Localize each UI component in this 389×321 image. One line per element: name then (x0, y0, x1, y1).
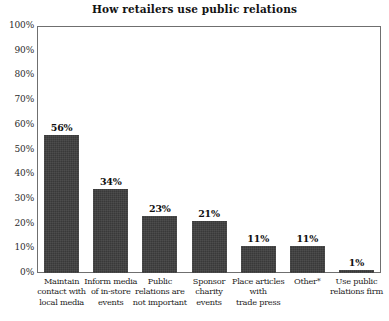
bar-group: 21% (192, 26, 227, 273)
bar-value-label: 56% (35, 122, 88, 133)
y-axis-tick-label: 20% (0, 218, 34, 230)
bar-value-label: 21% (183, 208, 236, 219)
bar-value-label: 11% (281, 233, 334, 244)
x-axis-category-label: Publicrelations arenot important (132, 276, 187, 307)
chart-title: How retailers use public relations (0, 3, 389, 15)
bar[interactable] (93, 189, 128, 273)
x-axis-category-label: Other* (280, 276, 335, 286)
x-axis-category-label: Inform mediaof in-storeevents (83, 276, 138, 307)
x-axis-category-line: local media (34, 297, 89, 307)
bar-group: 11% (241, 26, 276, 273)
x-axis-category-line: Public (132, 276, 187, 286)
x-axis-category-labels: Maintaincontact withlocal mediaInform me… (37, 276, 381, 321)
x-axis-category-line: events (83, 297, 138, 307)
y-axis-tick-label: 40% (0, 168, 34, 180)
bar-group: 34% (93, 26, 128, 273)
bar[interactable] (241, 246, 276, 273)
x-axis-category-line: trade press (231, 297, 286, 307)
bar-chart-figure: How retailers use public relations 100%9… (0, 0, 389, 321)
bar-group: 56% (44, 26, 79, 273)
x-axis-category-line: relations firm (329, 286, 384, 296)
x-axis-category-label: Place articleswithtrade press (231, 276, 286, 307)
x-axis-category-line: Other* (280, 276, 335, 286)
y-axis-tick-label: 30% (0, 193, 34, 205)
x-axis-category-line: Sponsor (181, 276, 236, 286)
y-axis-tick-label: 70% (0, 94, 34, 106)
x-axis-category-line: Use public (329, 276, 384, 286)
bar[interactable] (339, 270, 374, 273)
bar-value-label: 11% (232, 233, 285, 244)
y-axis-tick-label: 10% (0, 242, 34, 254)
x-axis-category-line: relations are (132, 286, 187, 296)
y-axis-tick-label: 90% (0, 45, 34, 57)
x-axis-category-line: Place articles (231, 276, 286, 286)
x-axis-category-line: with (231, 286, 286, 296)
x-axis-category-line: Maintain (34, 276, 89, 286)
y-axis-tick-label: 100% (0, 20, 34, 32)
bar[interactable] (290, 246, 325, 273)
bar-value-label: 23% (133, 203, 186, 214)
bar-group: 23% (142, 26, 177, 273)
x-axis-category-label: Sponsorcharityevents (181, 276, 236, 307)
x-axis-category-line: of in-store (83, 286, 138, 296)
bar[interactable] (192, 221, 227, 273)
x-axis-category-line: events (181, 297, 236, 307)
x-axis-category-line: charity (181, 286, 236, 296)
y-axis-tick-label: 60% (0, 119, 34, 131)
x-axis-category-line: Inform media (83, 276, 138, 286)
bar-group: 11% (290, 26, 325, 273)
y-axis-tick-label: 80% (0, 69, 34, 81)
x-axis-category-label: Use publicrelations firm (329, 276, 384, 297)
y-axis-tick-label: 0% (0, 267, 34, 279)
bars-layer: 56%34%23%21%11%11%1% (37, 26, 381, 273)
x-axis-category-label: Maintaincontact withlocal media (34, 276, 89, 307)
bar[interactable] (44, 135, 79, 273)
x-axis-category-line: not important (132, 297, 187, 307)
bar-value-label: 1% (330, 257, 383, 268)
y-axis-tick-label: 50% (0, 144, 34, 156)
bar[interactable] (142, 216, 177, 273)
x-axis-category-line: contact with (34, 286, 89, 296)
y-axis-tick-labels: 100%90%80%70%60%50%40%30%20%10%0% (0, 26, 34, 273)
bar-value-label: 34% (84, 176, 137, 187)
bar-group: 1% (339, 26, 374, 273)
